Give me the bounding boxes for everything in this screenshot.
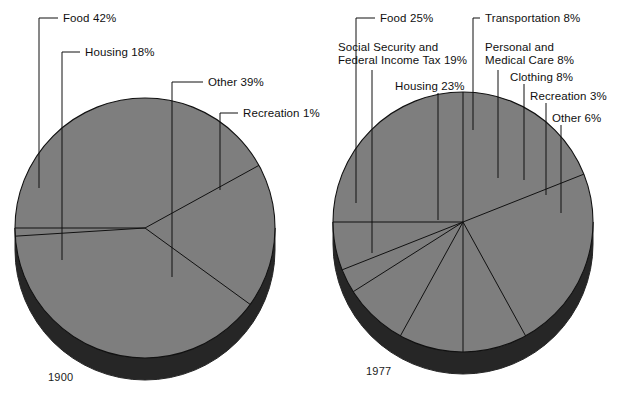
pie-1900 xyxy=(15,98,275,380)
pie-1977-label-recreation: Recreation 3% xyxy=(530,90,607,103)
pie-1977-label-housing: Housing 23% xyxy=(395,80,465,93)
pie-1977-year-caption: 1977 xyxy=(366,365,391,377)
pie-1977-label-food: Food 25% xyxy=(380,12,433,25)
pie-1900-label-other: Other 39% xyxy=(208,76,264,89)
pie-1900-label-food: Food 42% xyxy=(63,12,116,25)
pie-1977-label-social-tax: Social Security and Federal Income Tax 1… xyxy=(338,41,467,67)
pie-1977-label-transportation: Transportation 8% xyxy=(485,12,580,25)
figure-canvas: Food 42%Housing 18%Other 39%Recreation 1… xyxy=(0,0,618,400)
pie-1900-label-recreation: Recreation 1% xyxy=(243,107,320,120)
pie-1977-label-clothing: Clothing 8% xyxy=(510,71,573,84)
pie-1900-label-housing: Housing 18% xyxy=(85,46,155,59)
pie-1977-label-other: Other 6% xyxy=(552,112,601,125)
pie-1900-year-caption: 1900 xyxy=(48,371,73,383)
pie-1977-label-personal-med: Personal and Medical Care 8% xyxy=(485,41,574,67)
